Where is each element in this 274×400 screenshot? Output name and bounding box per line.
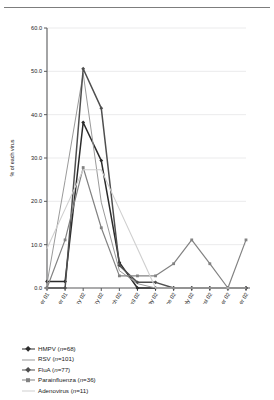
x-axis-tick-label: March 02 bbox=[105, 291, 122, 304]
legend-swatch-adenovirus-icon bbox=[22, 386, 35, 395]
series-marker-flua bbox=[154, 280, 158, 284]
y-axis-tick-label: 0.0 bbox=[34, 285, 42, 291]
series-marker-parainfluenza bbox=[208, 262, 211, 265]
series-marker-parainfluenza bbox=[118, 274, 121, 277]
x-axis-tick-label: December 01 bbox=[46, 291, 69, 304]
series-marker-parainfluenza bbox=[46, 287, 49, 290]
legend-item-flua[interactable]: FluA (n=77) bbox=[22, 365, 222, 375]
series-marker-parainfluenza bbox=[154, 274, 157, 277]
legend-marker-diamond-icon bbox=[26, 367, 32, 373]
y-axis-tick-label: 30.0 bbox=[31, 155, 42, 161]
series-line-parainfluenza bbox=[47, 168, 246, 288]
legend-label: HMPV (n=68) bbox=[38, 346, 76, 352]
series-marker-parainfluenza bbox=[136, 274, 139, 277]
series-line-adenovirus bbox=[47, 170, 246, 288]
series-marker-parainfluenza bbox=[64, 239, 67, 242]
y-axis-title: % of each virus bbox=[9, 139, 15, 176]
line-chart: 0.010.020.030.040.050.060.0% of each vir… bbox=[0, 14, 274, 304]
legend-label: Parainfluenza (n=36) bbox=[38, 377, 96, 383]
series-marker-parainfluenza bbox=[190, 239, 193, 242]
legend-item-hmpv[interactable]: HMPV (n=68) bbox=[22, 344, 222, 354]
legend-line-icon bbox=[22, 359, 35, 360]
x-axis-tick-label: August 02 bbox=[195, 291, 213, 304]
series-marker-parainfluenza bbox=[245, 239, 248, 242]
legend-item-rsv[interactable]: RSV (n=101) bbox=[22, 354, 222, 364]
legend-swatch-hmpv-icon bbox=[22, 345, 35, 354]
legend-swatch-parainfluenza-icon bbox=[22, 376, 35, 385]
legend-label: Adenovirus (n=11) bbox=[38, 388, 88, 394]
legend-label: FluA (n=77) bbox=[38, 367, 70, 373]
series-marker-parainfluenza bbox=[100, 226, 103, 229]
x-axis-tick-label: April 02 bbox=[126, 291, 141, 304]
x-axis-tick-label: June 02 bbox=[161, 291, 177, 304]
y-axis-tick-label: 60.0 bbox=[31, 25, 42, 31]
legend-marker-square-icon bbox=[26, 379, 30, 383]
y-axis-tick-label: 40.0 bbox=[31, 112, 42, 118]
top-divider-rule bbox=[4, 7, 270, 8]
x-axis-tick-label: July 02 bbox=[181, 291, 195, 304]
legend-line-icon bbox=[22, 390, 35, 391]
legend-swatch-rsv-icon bbox=[22, 355, 35, 364]
figure: 0.010.020.030.040.050.060.0% of each vir… bbox=[0, 0, 274, 400]
legend-label: RSV (n=101) bbox=[38, 356, 74, 362]
x-axis-tick-label: January 02 bbox=[67, 291, 87, 304]
y-axis-tick-label: 10.0 bbox=[31, 242, 42, 248]
chart-plot-area: 0.010.020.030.040.050.060.0% of each vir… bbox=[0, 14, 274, 304]
legend-swatch-flua-icon bbox=[22, 365, 35, 374]
chart-legend: HMPV (n=68)RSV (n=101)FluA (n=77)Parainf… bbox=[22, 344, 222, 396]
series-marker-flua bbox=[63, 286, 67, 290]
x-axis-tick-label: May 02 bbox=[144, 291, 159, 304]
y-axis-tick-label: 50.0 bbox=[31, 68, 42, 74]
y-axis-tick-label: 20.0 bbox=[31, 198, 42, 204]
series-marker-parainfluenza bbox=[172, 262, 175, 265]
x-axis-tick-label: November 01 bbox=[27, 291, 50, 304]
x-axis-tick-label: October 02 bbox=[230, 291, 250, 304]
series-marker-parainfluenza bbox=[82, 166, 85, 169]
legend-marker-diamond-icon bbox=[26, 346, 32, 352]
legend-item-adenovirus[interactable]: Adenovirus (n=11) bbox=[22, 386, 222, 396]
legend-item-parainfluenza[interactable]: Parainfluenza (n=36) bbox=[22, 375, 222, 385]
x-axis-tick-label: February 02 bbox=[84, 291, 105, 304]
